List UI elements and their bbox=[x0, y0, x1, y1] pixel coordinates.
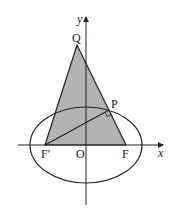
label-y: y bbox=[76, 12, 83, 26]
label-F-prime: F′ bbox=[41, 147, 51, 161]
ellipse-triangle-diagram: y x Q P F′ O F bbox=[0, 0, 178, 224]
label-Q: Q bbox=[72, 31, 81, 45]
label-F: F bbox=[122, 147, 129, 161]
label-O: O bbox=[76, 147, 85, 161]
label-x: x bbox=[157, 146, 164, 160]
label-P: P bbox=[111, 97, 118, 111]
